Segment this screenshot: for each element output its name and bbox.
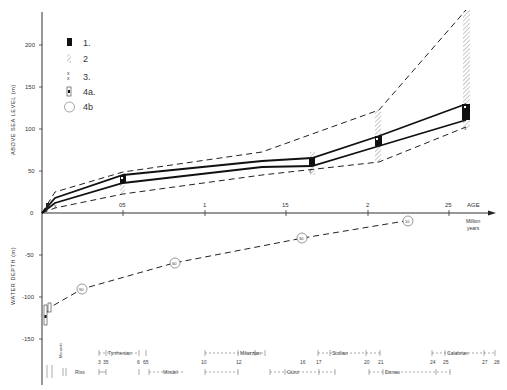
legend: 1. 2 x x 3. 4a. 4b [65,38,96,112]
svg-text:6: 6 [137,359,140,365]
y-axis-title-top: ABOVE SEA LEVEL (m) [10,84,16,155]
svg-text:21: 21 [378,359,384,365]
stage-riss: Riss [75,369,85,375]
sea-level-chart: 0 50 100 150 200 -50 -100 -150 ABOVE SEA… [0,0,507,390]
svg-text:10: 10 [201,359,207,365]
y-tick-neg50: -50 [25,252,34,258]
legend-label-1: 1. [83,38,91,48]
x-tick-05: 05 [119,202,126,208]
stage-tyrrhenian: Tyrrhenian [108,350,132,356]
legend-label-3: 3. [83,72,91,82]
lower-solid-bound [42,120,466,213]
x-axis-unit-1: Million [466,218,480,224]
stage-sicilian: Sicilian [332,350,348,356]
stage-gunz: Günz [287,369,299,375]
svg-text:30: 30 [299,236,304,241]
legend-label-4a: 4a. [83,87,96,97]
upper-dashed-bound [42,10,466,213]
svg-text:60: 60 [172,261,177,266]
y-tick-100: 100 [25,126,36,132]
depth-point-90: 90 [77,284,87,294]
svg-text:27: 27 [482,359,488,365]
x-tick-1: 1 [203,202,207,208]
water-depth-bar [44,303,51,325]
svg-text:35: 35 [103,359,109,365]
y-tick-neg100: -100 [22,294,35,300]
x-axis-title: AGE [467,202,480,208]
y-tick-50: 50 [28,168,35,174]
legend-hatched-bar-icon [67,54,71,63]
svg-text:25: 25 [443,359,449,365]
stage-mindel: Mindel [163,369,178,375]
y-tick-neg150: -150 [22,336,35,342]
stage-donau: Donau [385,369,400,375]
svg-text:28: 28 [494,359,500,365]
svg-text:10: 10 [405,219,410,224]
depth-point-60: 60 [170,258,180,268]
x-tick-25: 25 [445,202,452,208]
svg-text:20: 20 [364,359,370,365]
svg-text:90: 90 [79,287,84,292]
stage-calabrian: Calabrian [447,350,469,356]
upper-solid-bound [42,104,466,213]
stage-numbers: 3 35 6 65 10 12 16 17 20 21 24 25 27 28 [98,359,500,365]
stage-monastir: Monastir [58,342,63,358]
x-axis-unit-2: years [467,225,480,231]
svg-text:65: 65 [143,359,149,365]
legend-solid-bar-icon [67,38,72,46]
svg-text:12: 12 [236,359,242,365]
svg-text:3: 3 [98,359,101,365]
x-axis-arrow-icon [488,211,496,216]
svg-text:16: 16 [300,359,306,365]
legend-label-2: 2 [83,54,88,64]
depth-point-10: 10 [403,216,413,226]
y-axis-title-bottom: WATER DEPTH (m) [10,247,16,305]
svg-text:17: 17 [316,359,322,365]
y-tick-150: 150 [25,84,36,90]
legend-circle-icon [65,102,75,112]
x-tick-2: 2 [366,202,370,208]
depth-point-30: 30 [297,233,307,243]
x-tick-15: 15 [282,202,289,208]
water-depth-curve [45,221,405,322]
svg-text:x: x [67,75,70,81]
stage-milazzian: Milazzian [240,350,261,356]
y-tick-200: 200 [25,42,36,48]
y-tick-0: 0 [30,210,34,216]
legend-label-4b: 4b [83,102,93,112]
solid-range-bars [120,104,470,183]
svg-text:24: 24 [430,359,436,365]
